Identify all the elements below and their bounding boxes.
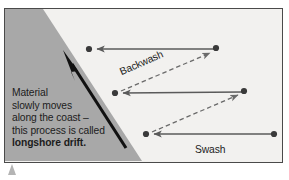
sediment-dot [143,131,149,137]
screenshot-root: Material slowly moves along the coast – … [0,0,289,180]
sediment-dot [271,131,277,137]
sediment-dot [86,46,92,52]
sediment-dot [241,88,247,94]
caption-line-5-longshore-drift: longshore drift. [12,137,134,150]
caption-block: Material slowly moves along the coast – … [12,87,134,150]
longshore-drift-figure: Material slowly moves along the coast – … [4,8,283,163]
sediment-dot [213,45,219,51]
caption-line-2: slowly moves [12,100,134,113]
caption-line-1: Material [12,87,134,100]
caption-line-4: this process is called [12,125,134,138]
swash-label: Swash [195,144,225,155]
caption-line-3: along the coast – [12,112,134,125]
page-tick-marker [8,164,16,175]
